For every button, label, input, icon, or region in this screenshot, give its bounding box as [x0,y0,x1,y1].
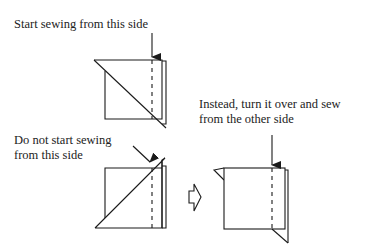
instead-label-line2: from the other side [199,112,294,127]
instead-label-line1: Instead, turn it over and sew [199,97,341,112]
correct-unit-figure [94,33,166,128]
flipped-unit-figure [214,135,288,243]
diagram-drawing [0,0,369,246]
wrong-start-label-line2: from this side [14,148,83,163]
correct-start-label: Start sewing from this side [14,17,148,32]
back-sheet-edge [162,61,166,124]
wrong-start-label-line1: Do not start sewing [14,133,112,148]
bottom-right-flap [272,229,288,243]
top-left-flap [214,168,224,180]
wrong-unit-figure [95,146,166,228]
square-outline [105,168,162,218]
square-outline [224,168,285,229]
diagram-canvas: Start sewing from this side Do not start… [0,0,369,246]
turn-over-arrow-icon [189,184,201,211]
back-sheet-edge [162,166,166,228]
wrong-start-arrow-icon [133,146,150,162]
